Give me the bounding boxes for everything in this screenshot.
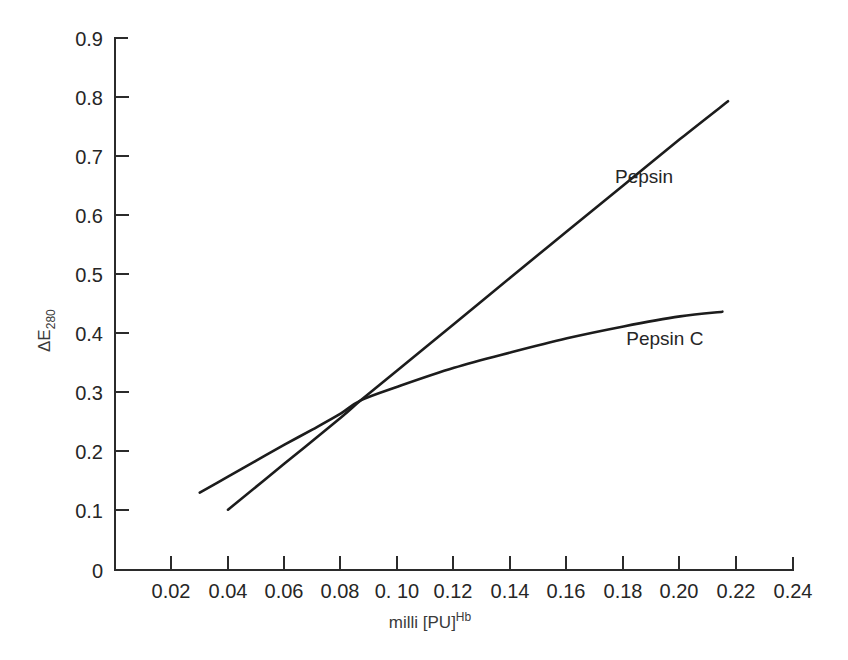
x-axis-title-base: milli [PU] xyxy=(389,613,456,632)
svg-text:milli [PU]Hb: milli [PU]Hb xyxy=(389,610,472,632)
series-label-pepsin: Pepsin xyxy=(615,166,673,187)
y-tick-label: 0.7 xyxy=(75,146,103,168)
data-curves xyxy=(200,101,728,509)
curve-pepsin xyxy=(228,101,728,509)
y-tick-label: 0.9 xyxy=(75,28,103,50)
x-tick-label: 0.08 xyxy=(321,580,360,602)
x-tick-label: 0. 10 xyxy=(375,580,419,602)
x-tick-label: 0.06 xyxy=(265,580,304,602)
svg-text:ΔE280: ΔE280 xyxy=(35,309,58,352)
figure-container: 0.9 0.8 0.7 0.6 0.5 0.4 0.3 0.2 0.1 0 0.… xyxy=(0,0,848,660)
y-tick-labels: 0.9 0.8 0.7 0.6 0.5 0.4 0.3 0.2 0.1 0 xyxy=(75,28,103,582)
chart-plot: 0.9 0.8 0.7 0.6 0.5 0.4 0.3 0.2 0.1 0 0.… xyxy=(0,0,848,660)
x-tick-label: 0.14 xyxy=(491,580,530,602)
series-annotations: Pepsin Pepsin C xyxy=(615,166,703,349)
y-tick-label: 0.3 xyxy=(75,382,103,404)
y-tick-label: 0.8 xyxy=(75,87,103,109)
x-tick-label: 0.04 xyxy=(209,580,248,602)
x-tick-label: 0.22 xyxy=(717,580,756,602)
x-tick-label: 0.12 xyxy=(434,580,473,602)
x-tick-label: 0.18 xyxy=(604,580,643,602)
x-tick-label: 0.20 xyxy=(660,580,699,602)
x-tick-label: 0.16 xyxy=(547,580,586,602)
y-axis-title-symbol: ΔE xyxy=(35,329,54,352)
axes-group xyxy=(115,38,793,570)
y-tick-label: 0.5 xyxy=(75,264,103,286)
series-label-pepsin-c: Pepsin C xyxy=(626,328,703,349)
y-tick-label-origin: 0 xyxy=(92,560,103,582)
x-tick-label: 0.02 xyxy=(152,580,191,602)
y-tick-marks xyxy=(115,97,129,510)
y-tick-label: 0.2 xyxy=(75,441,103,463)
y-axis-title-subscript: 280 xyxy=(44,309,58,329)
y-tick-label: 0.4 xyxy=(75,323,103,345)
x-tick-marks xyxy=(171,556,736,570)
y-tick-label: 0.1 xyxy=(75,500,103,522)
y-axis-title: ΔE280 xyxy=(35,309,58,352)
y-tick-label: 0.6 xyxy=(75,205,103,227)
x-axis-title-superscript: Hb xyxy=(456,610,472,624)
x-tick-labels: 0.02 0.04 0.06 0.08 0. 10 0.12 0.14 0.16… xyxy=(152,580,813,602)
x-tick-label: 0.24 xyxy=(774,580,813,602)
x-axis-title: milli [PU]Hb xyxy=(389,610,472,632)
